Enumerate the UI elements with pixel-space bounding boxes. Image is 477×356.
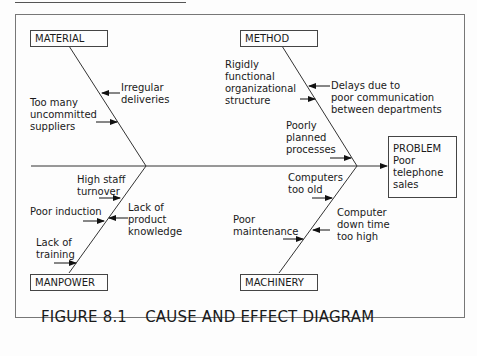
category-label: MANPOWER (35, 277, 95, 288)
cause-rigid-structure: Rigidly functional organizational struct… (225, 59, 296, 107)
cause-computers-old: Computers too old (288, 172, 343, 196)
category-label: MACHINERY (245, 277, 304, 288)
category-material: MATERIAL (30, 30, 108, 47)
category-manpower: MANPOWER (30, 274, 108, 291)
problem-line: sales (393, 179, 452, 191)
cause-poorly-planned: Poorly planned processes (286, 120, 336, 156)
cause-uncommitted-suppliers: Too many uncommitted suppliers (30, 97, 97, 133)
category-label: MATERIAL (35, 33, 84, 44)
figure-title: CAUSE AND EFFECT DIAGRAM (145, 308, 374, 326)
cause-lack-of-training: Lack of training (36, 237, 75, 261)
cause-poor-induction: Poor induction (30, 206, 102, 218)
category-method: METHOD (240, 30, 318, 47)
category-machinery: MACHINERY (240, 274, 318, 291)
problem-box: PROBLEM Poor telephone sales (388, 136, 457, 198)
category-label: METHOD (245, 33, 289, 44)
problem-line: Poor (393, 155, 452, 167)
cause-poor-maintenance: Poor maintenance (233, 214, 299, 238)
problem-line: telephone (393, 167, 452, 179)
cause-down-time: Computer down time too high (337, 207, 390, 243)
cause-irregular-deliveries: Irregular deliveries (121, 82, 169, 106)
cause-communication-delays: Delays due to poor communication between… (331, 80, 442, 116)
cause-staff-turnover: High staff turnover (77, 174, 125, 198)
figure-number: FIGURE 8.1 (41, 308, 127, 326)
problem-title: PROBLEM (393, 143, 452, 155)
cause-product-knowledge: Lack of product knowledge (128, 202, 182, 238)
figure-caption: FIGURE 8.1CAUSE AND EFFECT DIAGRAM (31, 290, 374, 326)
